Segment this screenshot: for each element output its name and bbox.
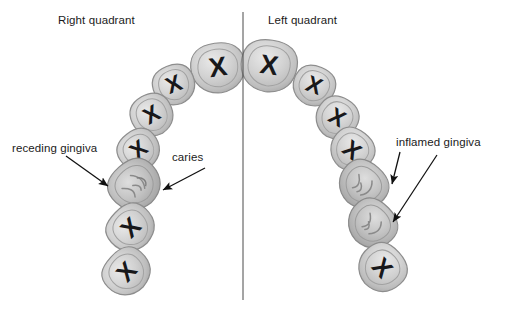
- arrow-inflamed-gingiva-upper: [392, 152, 400, 184]
- caries-label: caries: [172, 152, 203, 164]
- left-quadrant-teeth: X X X X: [238, 36, 416, 301]
- dental-arch-svg: X X X X: [0, 0, 506, 323]
- tooth-L1[interactable]: X: [238, 36, 301, 95]
- left-quadrant-label: Left quadrant: [268, 15, 337, 27]
- arrow-inflamed-gingiva-lower: [393, 155, 437, 222]
- tooth-L7[interactable]: X: [349, 235, 415, 302]
- dental-chart-figure: X X X X: [0, 0, 506, 323]
- inflamed-gingiva-label: inflamed gingiva: [396, 137, 481, 149]
- right-quadrant-teeth: X X X X: [95, 39, 249, 304]
- right-quadrant-label: Right quadrant: [58, 15, 135, 27]
- tooth-R7[interactable]: X: [95, 239, 160, 304]
- arrow-caries: [163, 168, 205, 190]
- tooth-R1[interactable]: X: [188, 39, 249, 96]
- receding-gingiva-label: receding gingiva: [12, 143, 97, 155]
- arrow-receding-gingiva: [66, 156, 108, 186]
